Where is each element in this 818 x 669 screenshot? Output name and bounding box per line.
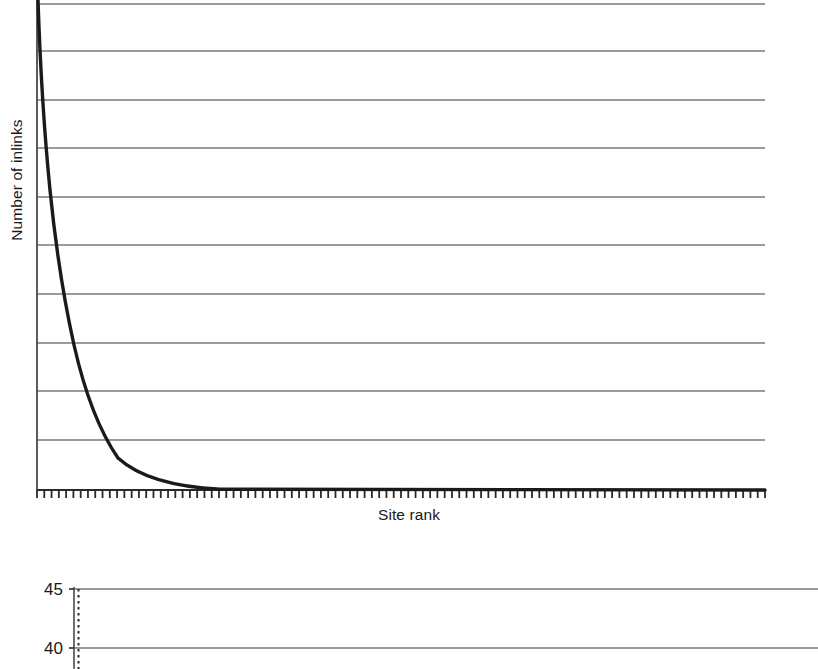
top-chart-gridlines xyxy=(37,4,765,440)
bottom-chart-plot-area: 45 40 xyxy=(0,555,818,669)
bottom-chart-gridlines xyxy=(74,589,818,648)
top-chart-x-axis-title: Site rank xyxy=(0,506,818,524)
top-chart-y-axis-title: Number of inlinks xyxy=(8,30,26,330)
bottom-chart-y-tick-label-40: 40 xyxy=(44,639,63,658)
figure-root: Number of inlinks Site rank 45 40 xyxy=(0,0,818,669)
top-chart-panel: Number of inlinks Site rank xyxy=(0,0,818,545)
bottom-chart-panel: 45 40 xyxy=(0,555,818,669)
top-chart-plot-area xyxy=(0,0,818,545)
bottom-chart-y-tick-label-45: 45 xyxy=(44,580,63,599)
